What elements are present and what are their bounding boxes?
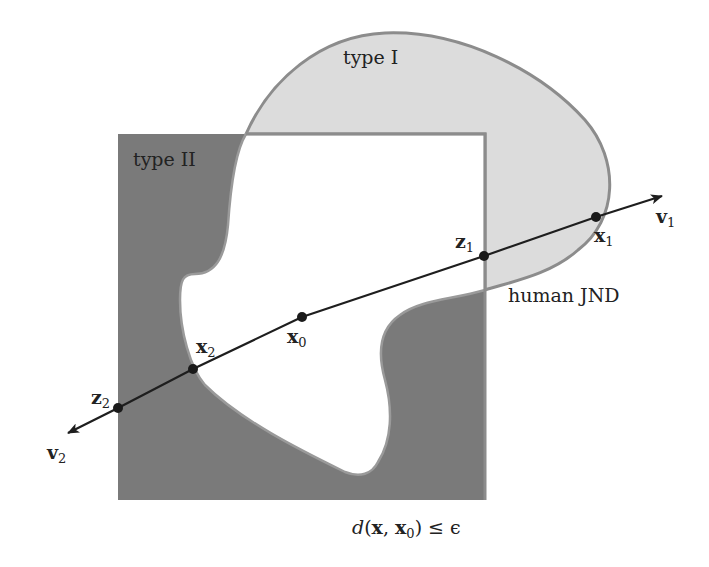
point-x1 — [591, 212, 601, 222]
point-z2 — [113, 403, 123, 413]
label-v1: v1 — [655, 205, 675, 230]
type-i-label: type I — [343, 46, 398, 68]
label-x1: x1 — [594, 224, 614, 249]
point-x2 — [188, 364, 198, 374]
human-jnd-label: human JND — [508, 284, 620, 306]
point-z1 — [479, 251, 489, 261]
adversarial-regions-diagram: type I type II human JND z1 x1 x0 x2 z2 … — [0, 0, 709, 567]
label-z2: z2 — [91, 386, 110, 411]
label-v2: v2 — [46, 441, 66, 466]
point-x0 — [297, 312, 307, 322]
type-ii-label: type II — [133, 148, 196, 170]
epsilon-ball-label: d(x, x0) ≤ ϵ — [352, 516, 461, 541]
